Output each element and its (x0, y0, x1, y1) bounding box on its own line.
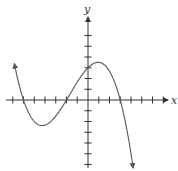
y-axis-label: y (83, 3, 91, 16)
axes (6, 17, 168, 168)
x-axis-label: x (171, 94, 178, 107)
cubic-curve (14, 62, 133, 168)
cubic-function-graph: x y (0, 0, 178, 171)
